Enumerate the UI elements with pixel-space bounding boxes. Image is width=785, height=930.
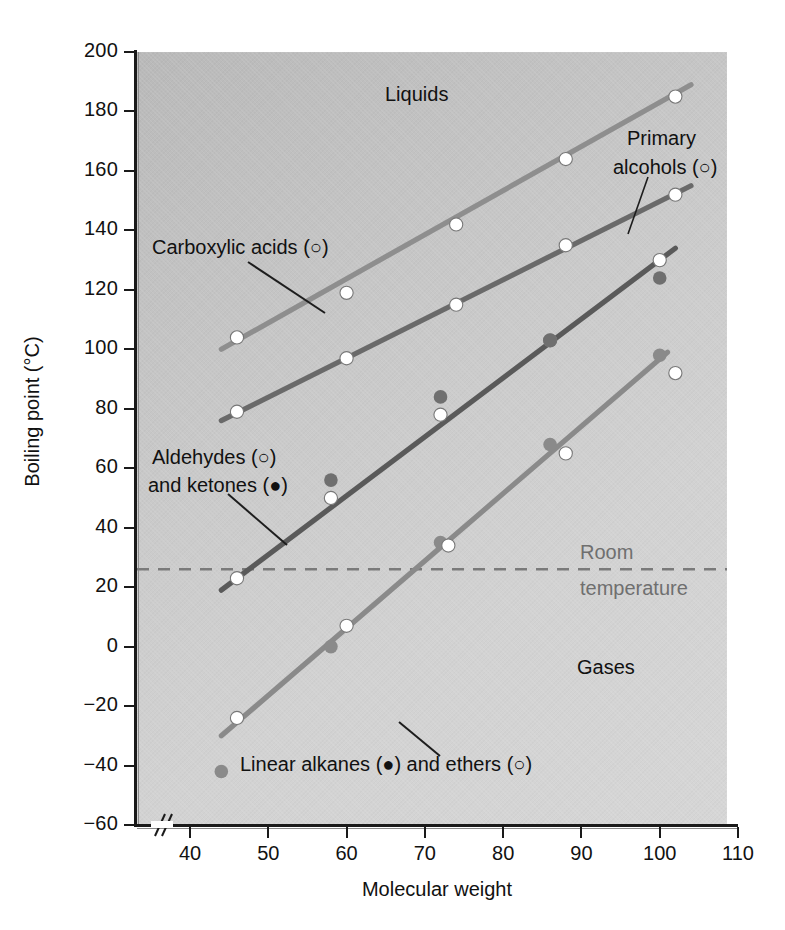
- primary-alcohols-label-line1: Primary: [627, 126, 696, 152]
- x-tick: [267, 827, 269, 838]
- axis-break-icon: [151, 812, 173, 838]
- region-label-liquids: Liquids: [385, 82, 448, 108]
- y-tick: [124, 824, 135, 826]
- carboxylic-acids-label: Carboxylic acids (○): [152, 235, 329, 261]
- y-tick-label: 0: [30, 634, 118, 657]
- x-tick-label: 80: [492, 842, 514, 865]
- x-tick-label: 100: [643, 842, 676, 865]
- y-tick: [124, 586, 135, 588]
- ketones-label: and ketones (●): [148, 473, 288, 499]
- y-tick-label: −20: [30, 693, 118, 716]
- x-tick-label: 70: [414, 842, 436, 865]
- x-tick: [502, 827, 504, 838]
- y-tick: [124, 646, 135, 648]
- x-tick-label: 60: [335, 842, 357, 865]
- y-tick-label: 140: [30, 217, 118, 240]
- y-tick: [124, 51, 135, 53]
- x-axis-line: [134, 824, 738, 827]
- y-tick: [124, 289, 135, 291]
- x-tick-label: 50: [257, 842, 279, 865]
- x-axis-title: Molecular weight: [362, 878, 512, 901]
- y-tick-label: 200: [30, 39, 118, 62]
- chart-figure: 200180160140120100806040200−20−40−60 405…: [0, 0, 785, 930]
- y-axis-title: Boiling point (°C): [21, 302, 44, 522]
- y-tick: [124, 408, 135, 410]
- y-tick-label: −40: [30, 753, 118, 776]
- x-tick-label: 40: [179, 842, 201, 865]
- y-tick-label: 180: [30, 98, 118, 121]
- y-tick-label: 120: [30, 277, 118, 300]
- x-tick-label: 110: [722, 842, 754, 865]
- y-tick: [124, 170, 135, 172]
- room-temp-label-line1: Room: [580, 540, 633, 566]
- room-temp-label-line2: temperature: [580, 576, 688, 602]
- x-tick: [424, 827, 426, 838]
- x-axis-inner-line: [137, 828, 738, 829]
- x-tick: [737, 827, 739, 838]
- y-axis-line: [134, 50, 137, 827]
- y-tick: [124, 467, 135, 469]
- y-tick: [124, 110, 135, 112]
- x-tick: [346, 827, 348, 838]
- y-axis-inner-line: [138, 52, 139, 825]
- x-tick: [580, 827, 582, 838]
- x-tick-label: 90: [570, 842, 592, 865]
- y-tick: [124, 527, 135, 529]
- x-tick: [189, 827, 191, 838]
- aldehydes-label: Aldehydes (○): [152, 445, 276, 471]
- y-tick: [124, 348, 135, 350]
- y-tick-label: −60: [30, 812, 118, 835]
- alkanes-ethers-label: Linear alkanes (●) and ethers (○): [240, 752, 532, 778]
- y-tick: [124, 705, 135, 707]
- y-tick-label: 160: [30, 158, 118, 181]
- x-tick: [659, 827, 661, 838]
- y-tick: [124, 765, 135, 767]
- region-label-gases: Gases: [577, 655, 635, 681]
- y-tick: [124, 229, 135, 231]
- primary-alcohols-label-line2: alcohols (○): [613, 155, 717, 181]
- y-tick-label: 20: [30, 574, 118, 597]
